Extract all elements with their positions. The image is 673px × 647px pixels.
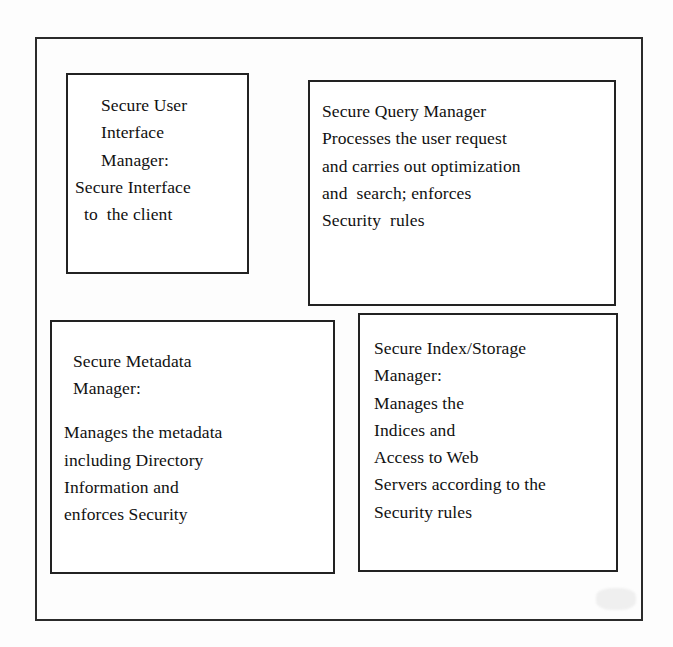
text-line: and carries out optimization	[322, 153, 606, 180]
box-secure-user-interface-manager-text: Secure UserInterfaceManager:Secure Inter…	[68, 75, 247, 228]
text-line: enforces Security	[64, 501, 325, 528]
text-line: Interface	[75, 119, 241, 146]
text-line: Security rules	[322, 207, 606, 234]
text-line: Secure Metadata	[64, 348, 325, 375]
box-secure-user-interface-manager[interactable]: Secure UserInterfaceManager:Secure Inter…	[66, 73, 249, 274]
text-line: Secure User	[75, 92, 241, 119]
text-line: Security rules	[374, 499, 612, 526]
text-line: Manages the	[374, 390, 612, 417]
text-line: Manager:	[374, 362, 612, 389]
text-line: including Directory	[64, 447, 325, 474]
text-line: Manager:	[64, 375, 325, 402]
text-line: Indices and	[374, 417, 612, 444]
text-line: and search; enforces	[322, 180, 606, 207]
text-line: Access to Web	[374, 444, 612, 471]
text-line: to the client	[75, 201, 241, 228]
text-line: Servers according to the	[374, 471, 612, 498]
box-secure-metadata-manager[interactable]: Secure MetadataManager:Manages the metad…	[50, 320, 335, 574]
box-secure-index-storage-manager[interactable]: Secure Index/StorageManager:Manages theI…	[358, 313, 618, 572]
text-line: Secure Interface	[75, 174, 241, 201]
box-secure-metadata-manager-text: Secure MetadataManager:Manages the metad…	[52, 322, 333, 528]
box-secure-query-manager-text: Secure Query ManagerProcesses the user r…	[310, 82, 614, 234]
diagram-canvas: Secure UserInterfaceManager:Secure Inter…	[0, 0, 673, 647]
text-line-blank	[64, 403, 325, 420]
text-line: Secure Query Manager	[322, 98, 606, 125]
box-secure-index-storage-manager-text: Secure Index/StorageManager:Manages theI…	[360, 315, 616, 526]
text-line: Processes the user request	[322, 125, 606, 152]
text-line: Manages the metadata	[64, 419, 325, 446]
text-line: Information and	[64, 474, 325, 501]
text-line: Secure Index/Storage	[374, 335, 612, 362]
text-line: Manager:	[75, 147, 241, 174]
box-secure-query-manager[interactable]: Secure Query ManagerProcesses the user r…	[308, 80, 616, 306]
